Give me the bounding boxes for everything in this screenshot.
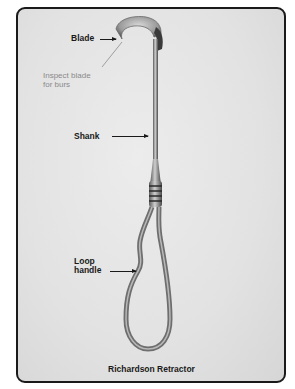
loop-handle-graphic [126, 207, 170, 349]
annotation-line-1: Inspect blade [43, 71, 91, 80]
annotation-line-2: for burs [43, 80, 70, 89]
loop-handle-label-line-2: handle [74, 266, 101, 275]
figure-caption: Richardson Retractor [108, 364, 195, 374]
shank-graphic [153, 39, 158, 179]
shank-arrow [112, 136, 148, 137]
blade-label: Blade [71, 34, 94, 43]
figure-frame: Blade Inspect blade for burs Shank Loop … [16, 7, 286, 383]
retractor-image [18, 9, 284, 381]
shank-label: Shank [74, 132, 100, 141]
blade-arrow [100, 39, 116, 40]
loop-handle-arrow [110, 271, 136, 272]
grip-rings-graphic [149, 181, 162, 207]
